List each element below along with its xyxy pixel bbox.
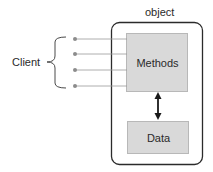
data-label: Data	[128, 122, 189, 154]
connector-dots	[73, 37, 77, 88]
object-label: object	[145, 6, 174, 18]
methods-label: Methods	[127, 34, 188, 92]
curly-brace-icon	[47, 37, 66, 88]
client-label: Client	[12, 56, 40, 68]
